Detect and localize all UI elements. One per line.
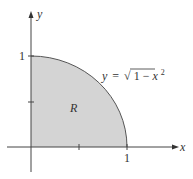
eq-y: y [101,69,108,83]
x-tick-label: 1 [124,151,130,165]
curve-equation-label: y = √ 1 − x 2 [101,68,165,83]
eq-sqrt: √ [124,69,131,83]
region-label: R [69,101,78,115]
svg-text:y = √ 1 −: y = √ 1 − x 2 [101,68,165,83]
quarter-circle-figure: y x 1 1 R y = √ 1 − x 2 [0,0,193,179]
eq-radicand-1: 1 − [134,69,153,83]
eq-radicand-x: x [151,69,158,83]
y-tick-label: 1 [19,49,25,63]
y-axis-arrow-icon [29,11,34,18]
x-axis-arrow-icon [172,145,179,150]
eq-radicand-exp: 2 [161,68,165,77]
x-axis-label: x [179,140,186,154]
y-axis-label: y [36,7,43,21]
eq-equals: = [112,69,119,83]
